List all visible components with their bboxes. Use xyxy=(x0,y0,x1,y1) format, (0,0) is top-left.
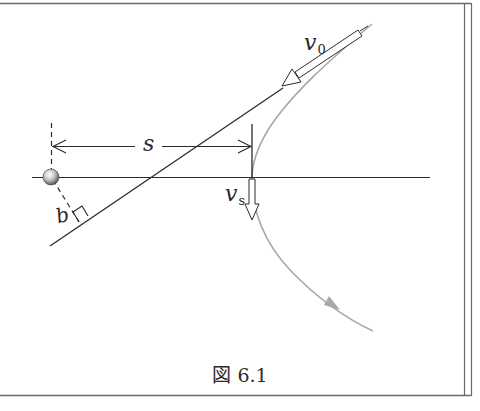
trajectory-arrowhead-icon xyxy=(324,296,340,310)
vs-label: vs xyxy=(225,183,245,207)
incoming-asymptote-line xyxy=(50,88,283,246)
target-sphere xyxy=(43,169,59,185)
figure-caption: 図 6.1 xyxy=(0,360,480,387)
right-angle-marker-icon xyxy=(73,206,88,222)
vs-subscript: s xyxy=(238,193,245,208)
s-label: s xyxy=(143,133,154,155)
scattering-diagram: v0 vs s b 図 6.1 xyxy=(0,0,480,411)
v0-label: v0 xyxy=(304,32,326,56)
v0-symbol: v xyxy=(304,30,316,55)
v0-subscript: 0 xyxy=(317,42,325,57)
vs-symbol: v xyxy=(225,181,237,206)
